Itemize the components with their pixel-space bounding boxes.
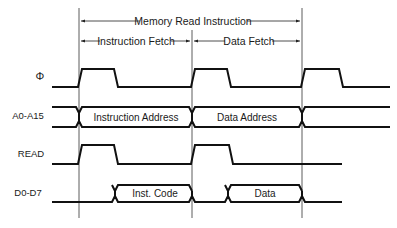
address-segment-data: Data Address [217, 112, 277, 123]
timing-diagram: Memory Read Instruction Instruction Fetc… [0, 0, 397, 228]
address-segment-instruction: Instruction Address [93, 112, 178, 123]
memory-read-span: Memory Read Instruction [81, 15, 300, 27]
data-bus-waveform [52, 185, 342, 202]
signal-label-address: A0-A15 [12, 110, 44, 121]
signal-label-phi: Φ [36, 70, 45, 82]
data-segment-data: Data [254, 188, 276, 199]
signal-label-read: READ [18, 148, 45, 159]
read-waveform [52, 145, 342, 164]
memory-read-label: Memory Read Instruction [134, 15, 251, 27]
instruction-fetch-label: Instruction Fetch [97, 35, 175, 47]
data-fetch-label: Data Fetch [223, 35, 275, 47]
instruction-fetch-span: Instruction Fetch [81, 35, 190, 47]
signal-label-data: D0-D7 [14, 187, 41, 198]
phi-waveform [52, 69, 390, 87]
data-fetch-span: Data Fetch [194, 35, 300, 47]
data-segment-inst-code: Inst. Code [132, 188, 178, 199]
